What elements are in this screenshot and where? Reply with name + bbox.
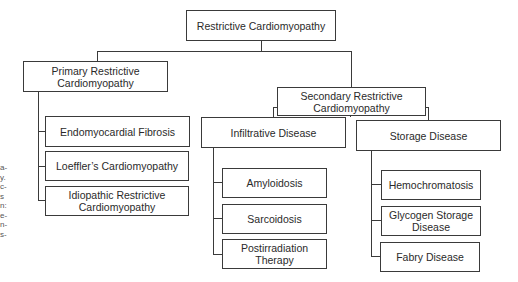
node-hemochromatosis: Hemochromatosis [381, 170, 481, 200]
connector [371, 220, 381, 221]
node-fabry-disease: Fabry Disease [380, 242, 480, 272]
node-glycogen-storage-disease: Glycogen Storage Disease [381, 206, 481, 236]
node-label: Endomyocardial Fibrosis [60, 126, 175, 138]
connector [213, 254, 222, 255]
connector [38, 91, 39, 201]
node-label: Sarcoidosis [247, 213, 301, 225]
connector [351, 51, 352, 88]
node-label: Glycogen Storage Disease [386, 209, 476, 233]
connector [428, 107, 429, 120]
node-idiopathic-restrictive: Idiopathic Restrictive Cardiomyopathy [45, 186, 189, 216]
margin-fragment: n: [0, 201, 7, 211]
connector [213, 182, 222, 183]
node-label: Infiltrative Disease [231, 127, 317, 139]
node-label: Amyloidosis [246, 177, 302, 189]
connector [213, 148, 214, 254]
connector [213, 218, 222, 219]
node-label: Secondary Restrictive Cardiomyopathy [292, 90, 412, 114]
node-label: Fabry Disease [396, 251, 464, 263]
node-infiltrative-disease: Infiltrative Disease [201, 117, 346, 148]
connector [371, 184, 381, 185]
node-label: Postirradiation Therapy [235, 242, 315, 266]
connector [97, 51, 98, 61]
margin-fragment: a- [0, 163, 7, 173]
margin-fragment: e- [0, 211, 7, 221]
margin-fragment: y. [0, 173, 7, 183]
connector [38, 200, 45, 201]
node-primary-restrictive: Primary Restrictive Cardiomyopathy [23, 61, 168, 92]
margin-text-fragments: a- y. c- s n: e- n- s- [0, 163, 7, 239]
node-label: Loeffler’s Cardiomyopathy [56, 160, 178, 172]
node-amyloidosis: Amyloidosis [222, 168, 327, 198]
connector [371, 150, 372, 257]
node-label: Restrictive Cardiomyopathy [197, 20, 325, 32]
node-restrictive-cardiomyopathy: Restrictive Cardiomyopathy [186, 10, 336, 41]
node-label: Hemochromatosis [389, 179, 474, 191]
node-endomyocardial-fibrosis: Endomyocardial Fibrosis [45, 116, 190, 147]
node-label: Storage Disease [390, 130, 468, 142]
margin-fragment: n- [0, 220, 7, 230]
node-secondary-restrictive: Secondary Restrictive Cardiomyopathy [277, 87, 426, 116]
margin-fragment: s [0, 192, 7, 202]
connector [97, 51, 352, 52]
margin-fragment: s- [0, 230, 7, 240]
margin-fragment: c- [0, 182, 7, 192]
node-loefflers-cardiomyopathy: Loeffler’s Cardiomyopathy [45, 151, 189, 181]
connector [38, 131, 45, 132]
node-sarcoidosis: Sarcoidosis [222, 204, 327, 234]
node-storage-disease: Storage Disease [356, 120, 501, 151]
connector [38, 166, 45, 167]
node-postirradiation-therapy: Postirradiation Therapy [222, 239, 327, 269]
node-label: Idiopathic Restrictive Cardiomyopathy [62, 189, 172, 213]
connector [273, 107, 274, 117]
node-label: Primary Restrictive Cardiomyopathy [41, 65, 151, 89]
